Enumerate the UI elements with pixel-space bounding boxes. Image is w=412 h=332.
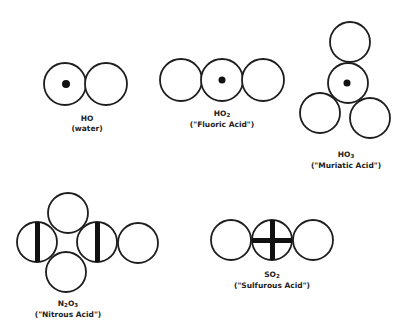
atom-oxygen — [118, 223, 158, 263]
compound-name: ("Sulfurous Acid") — [234, 281, 310, 291]
compound-name: ("Fluoric Acid") — [190, 120, 254, 130]
molecule-ho3 — [300, 22, 390, 138]
formula: HO2 — [190, 109, 254, 120]
label-ho2: HO2 ("Fluoric Acid") — [190, 109, 254, 130]
molecule-ho2 — [160, 59, 284, 101]
atom-oxygen — [242, 59, 284, 101]
formula: N2O3 — [35, 299, 102, 310]
molecule-ho — [44, 63, 127, 105]
molecule-so2 — [211, 220, 333, 260]
atom-oxygen — [350, 98, 390, 138]
hydrogen-dot-icon — [219, 77, 226, 84]
formula: HO3 — [311, 150, 381, 161]
compound-name: ("Muriatic Acid") — [311, 161, 381, 171]
sulfur-cross-horizontal-icon — [252, 238, 292, 243]
label-ho: HO (water) — [71, 114, 102, 134]
atom-oxygen — [293, 220, 333, 260]
compound-name: ("Nitrous Acid") — [35, 310, 102, 320]
nitrogen-bar-icon — [35, 222, 40, 262]
atom-oxygen — [211, 220, 251, 260]
atom-oxygen — [85, 63, 127, 105]
label-ho3: HO3 ("Muriatic Acid") — [311, 150, 381, 171]
atom-oxygen — [330, 22, 370, 62]
compound-name: (water) — [71, 124, 102, 134]
molecule-n2o3 — [17, 193, 158, 292]
formula: SO2 — [234, 270, 310, 281]
atom-oxygen — [300, 93, 340, 133]
atom-oxygen — [48, 193, 88, 233]
label-so2: SO2 ("Sulfurous Acid") — [234, 270, 310, 291]
label-n2o3: N2O3 ("Nitrous Acid") — [35, 299, 102, 320]
hydrogen-dot-icon — [344, 80, 351, 87]
atom-oxygen — [160, 59, 202, 101]
atom-oxygen — [46, 252, 86, 292]
nitrogen-bar-icon — [95, 222, 100, 262]
formula: HO — [71, 114, 102, 124]
hydrogen-dot-icon — [62, 80, 70, 88]
